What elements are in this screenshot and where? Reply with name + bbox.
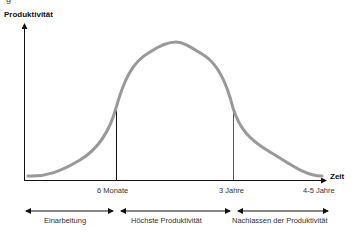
x-tick-6-monate: 6 Monate <box>97 186 128 195</box>
productivity-curve <box>28 42 322 176</box>
x-tick-3-jahre: 3 Jahre <box>219 186 244 195</box>
phase-label-einarbeitung: Einarbeitung <box>44 216 86 225</box>
phase-label-nachlassen: Nachlassen der Produktivität <box>232 216 327 225</box>
diagram-graphics <box>0 0 360 237</box>
phase-label-hoechste: Höchste Produktivität <box>131 216 202 225</box>
x-tick-4-5-jahre: 4-5 Jahre <box>303 186 335 195</box>
productivity-diagram: g Produktivität Zeit 6 Monate 3 Jahre 4-… <box>0 0 360 237</box>
